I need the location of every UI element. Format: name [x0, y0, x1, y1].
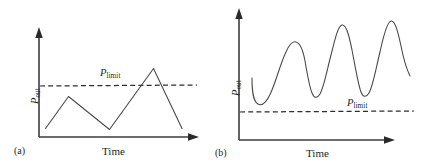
panel-b-x-axis-label: Time [306, 148, 329, 159]
panel-b-y-axis-label-sub: out [235, 80, 243, 90]
panel-a-caption: (a) [14, 146, 25, 156]
panel-a-x-axis-label: Time [102, 146, 125, 157]
panel-a-y-axis-arrow-icon [35, 27, 42, 38]
panel-a-y-axis-label-sub: out [34, 88, 42, 98]
panel-b-x-axis-arrow-icon [384, 136, 395, 143]
panel-a-y-axis-label-main: P [29, 98, 40, 104]
panel-b-limit-label: Plimit [347, 98, 368, 109]
panel-b-y-axis-label: Pout [231, 80, 242, 96]
panel-a-limit-label-sub: limit [106, 72, 120, 80]
panel-a-limit-line [40, 85, 197, 86]
panel-a-limit-label: Plimit [100, 68, 121, 79]
panel-b-plot [214, 0, 427, 164]
figure-container: Pout Time Plimit (a) Pout Time Plimit (b… [0, 0, 427, 164]
panel-b-limit-line [240, 111, 414, 112]
panel-b-limit-label-sub: limit [353, 102, 367, 110]
panel-b-data-curve [252, 21, 410, 105]
panel-a-plot [0, 0, 214, 164]
panel-b-caption: (b) [215, 148, 227, 158]
panel-a: Pout Time Plimit (a) [0, 0, 214, 164]
panel-b-y-axis-label-main: P [230, 90, 241, 96]
panel-a-x-axis-arrow-icon [188, 133, 199, 140]
panel-b-y-axis-arrow-icon [235, 8, 242, 19]
panel-b: Pout Time Plimit (b) [214, 0, 427, 164]
panel-a-y-axis-label: Pout [30, 88, 41, 104]
